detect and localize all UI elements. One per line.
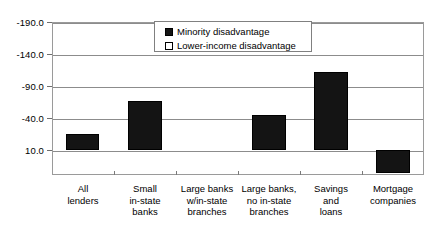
x-label-line: Small — [114, 183, 176, 195]
y-tick-label-4: 10.0 — [25, 145, 44, 156]
x-label-line: branches — [176, 206, 238, 218]
x-label-line: Large banks — [176, 183, 238, 195]
x-label-line: no in-state — [238, 195, 300, 207]
x-label-line: lenders — [52, 195, 114, 207]
x-tickmark-4 — [362, 171, 363, 175]
x-label-line: companies — [362, 195, 424, 207]
x-label-line: in-state — [114, 195, 176, 207]
x-tickmark-1 — [176, 171, 177, 175]
legend-swatch-hollow-icon — [165, 42, 173, 50]
bar-large-banks-no-in-state-branches — [252, 115, 286, 150]
x-label-large-banks-no-in-state-branches: Large banks, no in-state branches — [238, 183, 300, 233]
x-label-line: Savings — [300, 183, 362, 195]
x-tickmark-0 — [114, 171, 115, 175]
x-label-line: All — [52, 183, 114, 195]
y-tick-label-2: -90.0 — [22, 81, 44, 92]
x-label-line: and — [300, 195, 362, 207]
x-label-line: loans — [300, 206, 362, 218]
y-axis: -190.0 -140.0 -90.0 -40.0 10.0 — [0, 0, 52, 236]
legend-item-lower-income-disadvantage: Lower-income disadvantage — [165, 39, 311, 52]
y-tick-label-1: -140.0 — [16, 49, 44, 60]
bar-savings-and-loans — [314, 72, 348, 150]
legend-label-minority-disadvantage: Minority disadvantage — [177, 26, 269, 37]
x-tickmark-3 — [300, 171, 301, 175]
bar-chart: -190.0 -140.0 -90.0 -40.0 10.0 — [0, 0, 442, 236]
x-label-savings-and-loans: Savings and loans — [300, 183, 362, 233]
legend-item-minority-disadvantage: Minority disadvantage — [165, 25, 311, 38]
bar-mortgage-companies — [376, 150, 410, 173]
x-label-line: w/in-state — [176, 195, 238, 207]
y-tick-label-0: -190.0 — [16, 17, 44, 28]
x-label-line: banks — [114, 206, 176, 218]
x-label-all-lenders: All lenders — [52, 183, 114, 233]
x-label-small-in-state-banks: Small in-state banks — [114, 183, 176, 233]
bar-all-lenders — [66, 134, 99, 150]
y-tick-label-3: -40.0 — [22, 113, 44, 124]
x-tickmark-2 — [238, 171, 239, 175]
legend-label-lower-income-disadvantage: Lower-income disadvantage — [177, 40, 296, 51]
x-label-line: Large banks, — [238, 183, 300, 195]
x-label-line: branches — [238, 206, 300, 218]
x-axis-labels: All lenders Small in-state banks Large b… — [52, 183, 424, 233]
legend-swatch-filled-icon — [165, 28, 173, 36]
x-label-mortgage-companies: Mortgage companies — [362, 183, 424, 233]
legend: Minority disadvantage Lower-income disad… — [154, 21, 312, 52]
x-label-large-banks-with-in-state-branches: Large banks w/in-state branches — [176, 183, 238, 233]
x-label-line: Mortgage — [362, 183, 424, 195]
bar-small-in-state-banks — [128, 101, 162, 150]
